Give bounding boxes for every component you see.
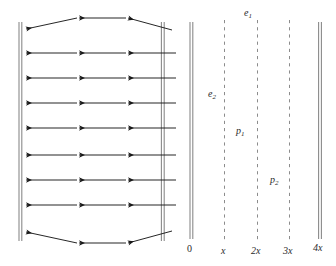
axis-tick-4x: 4x <box>313 243 322 253</box>
label-e2: e2 <box>208 89 216 99</box>
position-axis-panel <box>0 0 336 266</box>
label-p1: p1 <box>236 126 245 136</box>
label-e1: e1 <box>244 8 252 18</box>
axis-tick-2x-text: 2x <box>251 245 260 256</box>
label-p2-sub: 2 <box>275 179 279 187</box>
axis-tick-4x-text: 4x <box>313 242 322 253</box>
label-p2: p2 <box>270 175 279 185</box>
axis-line-4x <box>319 22 322 239</box>
axis-tick-0: 0 <box>187 244 192 254</box>
axis-tick-3x-text: 3x <box>283 245 292 256</box>
label-e1-sub: 1 <box>248 12 252 20</box>
figure-root: e1 e2 p1 p2 0 x 2x 3x 4x <box>0 0 336 266</box>
axis-tick-2x: 2x <box>251 246 260 256</box>
axis-tick-x: x <box>221 246 225 256</box>
label-p1-sub: 1 <box>241 130 245 138</box>
axis-tick-x-text: x <box>221 245 225 256</box>
axis-line-0 <box>190 22 193 239</box>
label-e2-sub: 2 <box>212 93 216 101</box>
axis-tick-3x: 3x <box>283 246 292 256</box>
